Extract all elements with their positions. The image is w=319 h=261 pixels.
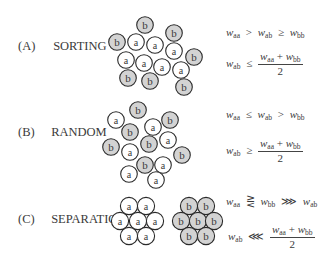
weight-subscript: ab	[265, 113, 272, 122]
svg-text:a: a	[127, 231, 132, 242]
fraction-denominator: 2	[258, 152, 303, 165]
svg-text:a: a	[142, 58, 147, 69]
svg-text:b: b	[203, 230, 209, 242]
fraction-numerator: waa + wbb	[258, 137, 303, 152]
fraction: waa + wbb 2	[258, 137, 303, 165]
weight-subscript: ab	[235, 235, 242, 244]
svg-text:b: b	[186, 200, 192, 212]
svg-text:a: a	[161, 160, 166, 171]
particle-a: a	[108, 112, 125, 129]
weight-symbol: w	[286, 50, 293, 62]
plus-sign: +	[277, 50, 283, 62]
weight-subscript: bb	[297, 113, 305, 122]
particle-a: a	[128, 34, 145, 51]
relation-symbol: ≥	[278, 26, 284, 38]
fraction: waa + wbb 2	[258, 50, 303, 78]
svg-text:b: b	[127, 126, 133, 138]
particle-a: a	[136, 55, 153, 72]
section-a-condition-2: wab ≤ waa + wbb 2	[226, 50, 303, 78]
particle-b: b	[122, 124, 139, 141]
svg-text:b: b	[181, 81, 187, 93]
svg-text:a: a	[127, 169, 132, 180]
plus-sign: +	[277, 137, 283, 149]
particle-a: a	[137, 227, 154, 244]
particle-b: b	[176, 79, 193, 96]
svg-text:a: a	[166, 135, 171, 146]
section-c-condition-2: wab ⋘ waa + wbb 2	[228, 223, 315, 251]
particle-b: b	[197, 227, 214, 244]
weight-subscript: aa	[233, 200, 240, 209]
particle-b: b	[197, 197, 214, 214]
svg-text:b: b	[167, 114, 173, 126]
svg-text:b: b	[146, 138, 152, 150]
plus-sign: +	[289, 223, 295, 235]
weight-subscript: ab	[233, 62, 240, 71]
particle-b: b	[120, 70, 137, 87]
svg-text:b: b	[211, 215, 217, 227]
relation-symbol: >	[246, 26, 252, 38]
weight-subscript: ab	[233, 149, 240, 158]
relation-symbol: ⋘	[248, 230, 264, 242]
svg-text:b: b	[195, 215, 201, 227]
svg-text:b: b	[178, 215, 184, 227]
weight-subscript: bb	[293, 55, 301, 64]
particle-b: b	[205, 212, 222, 229]
svg-text:b: b	[142, 19, 148, 31]
weight-subscript: ab	[310, 200, 317, 209]
particle-a: a	[145, 119, 162, 136]
fraction: waa + wbb 2	[270, 223, 315, 251]
weight-symbol: w	[258, 26, 265, 38]
particle-a: a	[173, 62, 190, 79]
svg-text:a: a	[134, 37, 139, 48]
svg-text:a: a	[151, 122, 156, 133]
particle-a: a	[147, 37, 164, 54]
relation-symbol: ≥	[246, 144, 252, 156]
particle-a: a	[118, 52, 135, 69]
svg-text:b: b	[125, 72, 131, 84]
particle-a: a	[160, 132, 177, 149]
weight-subscript: aa	[233, 31, 240, 40]
weight-symbol: w	[258, 108, 265, 120]
weight-symbol: w	[290, 26, 297, 38]
svg-text:a: a	[179, 65, 184, 76]
weight-symbol: w	[298, 223, 305, 235]
particle-b: b	[186, 49, 203, 66]
particle-a: a	[148, 172, 165, 189]
weight-symbol: w	[286, 137, 293, 149]
section-b-condition-2: wab ≥ waa + wbb 2	[226, 137, 303, 165]
particle-a: a	[120, 197, 137, 214]
svg-text:a: a	[118, 216, 123, 227]
particle-a: a	[146, 212, 163, 229]
particle-a: a	[155, 157, 172, 174]
particle-b: b	[137, 17, 154, 34]
svg-text:b: b	[203, 200, 209, 212]
particle-a: a	[166, 43, 183, 60]
weight-subscript: aa	[267, 55, 274, 64]
particle-a: a	[129, 212, 146, 229]
particle-b: b	[103, 139, 120, 156]
weight-subscript: aa	[267, 142, 274, 151]
svg-text:b: b	[171, 27, 177, 39]
svg-text:b: b	[135, 104, 141, 116]
particle-b: b	[174, 147, 191, 164]
relation-symbol: ⋛	[246, 195, 255, 207]
svg-text:b: b	[142, 159, 148, 171]
weight-subscript: bb	[293, 142, 301, 151]
particle-b: b	[141, 136, 158, 153]
svg-text:b: b	[114, 36, 120, 48]
svg-text:a: a	[160, 62, 165, 73]
svg-text:b: b	[191, 51, 197, 63]
svg-text:b: b	[179, 149, 185, 161]
relation-symbol: >	[278, 108, 284, 120]
particle-a: a	[154, 59, 171, 76]
particle-a: a	[137, 197, 154, 214]
particle-b: b	[172, 212, 189, 229]
svg-text:a: a	[128, 147, 133, 158]
section-a-condition-1: waa > wab ≥ wbb	[226, 26, 305, 38]
weight-symbol: w	[261, 195, 268, 207]
particle-b: b	[189, 212, 206, 229]
particle-b: b	[166, 25, 183, 42]
relation-symbol: ≤	[246, 108, 252, 120]
svg-text:b: b	[186, 230, 192, 242]
svg-text:a: a	[136, 216, 141, 227]
